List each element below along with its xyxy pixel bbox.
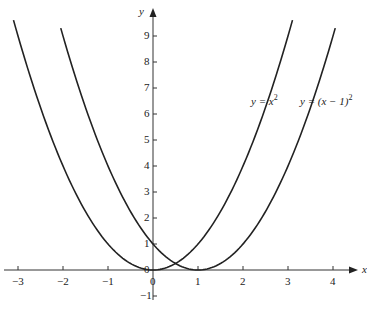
y-tick-label: 7 <box>144 82 150 93</box>
y-tick-label: 8 <box>144 56 150 67</box>
y-tick-label: 9 <box>144 30 150 41</box>
x-ticks <box>18 266 333 270</box>
x-axis-label: x <box>362 264 367 275</box>
y-tick-label: 6 <box>144 108 150 119</box>
parabola-chart <box>0 0 367 311</box>
curve-label-exponent: 2 <box>274 93 278 102</box>
x-tick-label: −3 <box>12 276 24 287</box>
y-axis-label: y <box>139 6 144 17</box>
y-ticks <box>153 36 157 296</box>
y-tick-label: 4 <box>144 160 150 171</box>
y-tick-label: 2 <box>144 212 150 223</box>
x-tick-label: 3 <box>285 276 291 287</box>
curve-label-text: y = x <box>251 95 274 107</box>
curve-label-exponent: 2 <box>348 93 352 102</box>
y-tick-label: 1 <box>144 238 150 249</box>
y-tick-label: 3 <box>144 186 150 197</box>
curve-label-x-squared: y = x2 <box>251 94 278 107</box>
y-tick-label: −1 <box>140 290 152 301</box>
curves <box>14 20 336 270</box>
y-tick-label: 0 <box>144 264 150 275</box>
curve-label-text: y = (x − 1) <box>300 95 348 107</box>
x-tick-label: 1 <box>195 276 201 287</box>
x-tick-label: 4 <box>330 276 336 287</box>
x-tick-label: −1 <box>102 276 114 287</box>
x-tick-label: −2 <box>57 276 69 287</box>
y-axis-arrow-icon <box>150 8 157 17</box>
x-tick-label: 2 <box>240 276 246 287</box>
curve-label-x-minus-1-squared: y = (x − 1)2 <box>300 94 352 107</box>
x-axis-arrow-icon <box>349 267 358 274</box>
y-tick-label: 5 <box>144 134 150 145</box>
x-tick-label: 0 <box>150 276 156 287</box>
curve-x-minus-1-squared <box>61 28 336 270</box>
